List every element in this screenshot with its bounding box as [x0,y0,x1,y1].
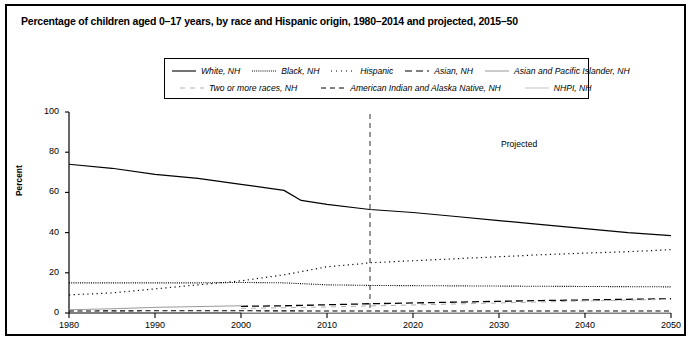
legend-label-asian-nh: Asian, NH [434,66,473,76]
line-style-dotted-fine-icon [251,67,277,75]
legend-item-white-nh[interactable]: White, NH [171,66,240,76]
y-axis-tick-label: 100 [35,106,59,116]
legend-item-aian-nh[interactable]: American Indian and Alaska Native, NH [320,83,501,93]
line-style-solid-vlight-icon [524,84,550,92]
line-style-solid-icon [171,67,197,75]
legend-label-api-nh: Asian and Pacific Islander, NH [514,66,630,76]
legend-item-two-or-more-nh[interactable]: Two or more races, NH [179,83,297,93]
x-axis-tick-label: 1990 [138,320,172,330]
chart-frame: Percentage of children aged 0–17 years, … [5,4,686,336]
legend-row-2: Two or more races, NH American Indian an… [171,79,582,96]
legend-label-white-nh: White, NH [201,66,240,76]
legend-item-api-nh[interactable]: Asian and Pacific Islander, NH [484,66,630,76]
legend-label-hispanic: Hispanic [360,66,393,76]
legend-label-black-nh: Black, NH [281,66,319,76]
line-style-dashed-long-icon [404,67,430,75]
y-axis-tick-label: 60 [35,186,59,196]
x-axis-tick-label: 1980 [52,320,86,330]
line-style-solid-light-icon [484,67,510,75]
legend-item-asian-nh[interactable]: Asian, NH [404,66,473,76]
chart-page: Percentage of children aged 0–17 years, … [0,0,691,340]
x-axis-tick-label: 2020 [396,320,430,330]
x-axis-tick-label: 2010 [310,320,344,330]
legend-label-aian-nh: American Indian and Alaska Native, NH [350,83,501,93]
y-axis-tick-label: 20 [35,267,59,277]
y-axis-tick-label: 80 [35,146,59,156]
legend-item-hispanic[interactable]: Hispanic [330,66,393,76]
projected-annotation: Projected [501,139,537,149]
legend-label-two-or-more-nh: Two or more races, NH [209,83,297,93]
y-axis-tick-label: 40 [35,227,59,237]
x-axis-tick-label: 2000 [224,320,258,330]
y-axis-tick-label: 0 [35,307,59,317]
chart-legend: White, NH Black, NH Hispanic [164,58,589,99]
x-axis-tick-label: 2030 [482,320,516,330]
line-style-dashed-light-icon [179,84,205,92]
legend-item-nhpi-nh[interactable]: NHPI, NH [524,83,592,93]
x-axis-tick-label: 2050 [654,320,688,330]
legend-label-nhpi-nh: NHPI, NH [554,83,592,93]
x-axis-tick-label: 2040 [568,320,602,330]
y-axis-title: Percent [14,165,24,196]
line-style-dotted-sparse-icon [330,67,356,75]
line-style-dashed-medium-icon [320,84,346,92]
legend-row-1: White, NH Black, NH Hispanic [171,62,582,79]
legend-item-black-nh[interactable]: Black, NH [251,66,319,76]
page-title: Percentage of children aged 0–17 years, … [21,15,518,27]
